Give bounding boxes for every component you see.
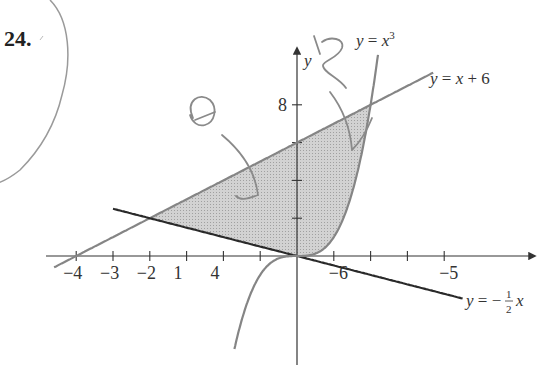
figure: 24. −6−5−4−3−214 8 y y = x3 y = x + 6 y … — [0, 0, 542, 375]
shaded-region — [150, 105, 371, 256]
label-y-neg-half-x: y = − 1 2 x — [464, 288, 524, 315]
label-y-x-plus-6: y = x + 6 — [428, 69, 490, 88]
y-tick-label: 8 — [278, 95, 287, 115]
x-tick-label: 1 — [174, 263, 183, 283]
label-y-x-cubed: y = x3 — [354, 29, 395, 50]
problem-number: 24. — [4, 26, 32, 51]
svg-text:2: 2 — [506, 303, 512, 315]
svg-text:x: x — [515, 291, 524, 310]
y-axis-label: y — [302, 51, 312, 70]
svg-text:1: 1 — [506, 288, 512, 300]
x-tick-label: −5 — [439, 263, 458, 283]
x-tick-label: −2 — [137, 263, 156, 283]
x-tick-label: −4 — [63, 263, 82, 283]
plot-canvas: 24. −6−5−4−3−214 8 y y = x3 y = x + 6 y … — [0, 0, 542, 375]
x-tick-label: −3 — [100, 263, 119, 283]
x-tick-label: 4 — [210, 263, 219, 283]
svg-text:y = −: y = − — [464, 291, 501, 310]
